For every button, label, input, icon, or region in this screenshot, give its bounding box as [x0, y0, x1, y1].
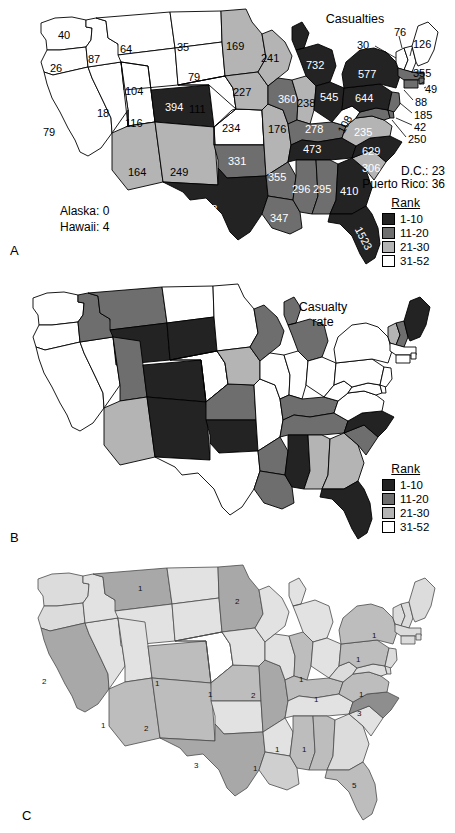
state-az — [109, 678, 160, 746]
legend-label-11-20: 11-20 — [400, 493, 429, 505]
value-label-nh: 30 — [357, 40, 369, 51]
state-mn — [213, 284, 258, 351]
count-label-nc: 3 — [357, 710, 361, 718]
legend-row: 1-10 — [382, 479, 429, 492]
legend-label-21-30: 21-30 — [400, 241, 429, 253]
panel-b-legend: Rank 1-10 11-20 21-30 31-52 — [382, 462, 429, 535]
value-label-ks: 234 — [222, 123, 240, 134]
value-label-ri: 49 — [425, 84, 437, 95]
value-label-az: 164 — [128, 167, 146, 178]
value-label-ma: 355 — [413, 68, 431, 79]
state-ct — [401, 636, 415, 644]
state-az — [104, 397, 155, 465]
value-label-de: 42 — [414, 122, 426, 133]
legend-row: 31-52 — [382, 255, 429, 268]
value-label-wi: 241 — [261, 53, 279, 64]
state-ri — [416, 634, 421, 640]
legend-row: 11-20 — [382, 493, 429, 506]
panel-a: Casualties 40 26 87 64 35 79 104 111 18 … — [0, 0, 455, 282]
legend-swatch-11-20 — [382, 227, 395, 239]
state-ct — [404, 80, 418, 88]
state-ia — [222, 628, 265, 666]
legend-swatch-31-52 — [382, 255, 395, 267]
value-label-me: 126 — [413, 39, 431, 50]
count-label-mt: 1 — [138, 585, 142, 593]
value-label-va: 235 — [354, 127, 372, 138]
legend-row: 21-30 — [382, 507, 429, 520]
state-wa — [38, 573, 89, 606]
value-label-co: 394 — [165, 102, 183, 113]
state-mi — [292, 22, 336, 86]
value-label-tn: 473 — [303, 144, 321, 155]
legend-label-1-10: 1-10 — [400, 213, 423, 225]
value-label-ar: 355 — [268, 172, 286, 183]
state-ri — [411, 353, 416, 359]
panel-c: 1 2 2 1 1 2 1 1 1 1 1 3 1 2 3 1 1 1 5 C — [0, 560, 455, 833]
value-label-tx: 498 — [199, 204, 217, 215]
value-label-md: 250 — [408, 134, 426, 145]
value-label-nd: 35 — [177, 42, 189, 53]
state-fl — [325, 762, 377, 820]
panel-b-letter: B — [10, 530, 19, 545]
count-label-nm: 2 — [144, 725, 148, 733]
state-co — [143, 360, 206, 402]
legend-row: 31-52 — [382, 521, 429, 534]
state-nd — [167, 567, 219, 604]
state-me — [409, 578, 435, 622]
count-label-ny: 1 — [372, 632, 376, 640]
state-ny — [339, 604, 397, 644]
legend-title: Rank — [382, 462, 429, 476]
panel-a-legend: Rank 1-10 11-20 21-30 31-52 — [382, 196, 429, 269]
value-label-ia: 227 — [233, 87, 251, 98]
legend-swatch-1-10 — [382, 479, 395, 491]
value-label-mt: 64 — [120, 44, 132, 55]
panel-b: Casualty rate Rank 1-10 11-20 21-30 31-5… — [0, 282, 455, 560]
legend-swatch-21-30 — [382, 507, 395, 519]
legend-row: 21-30 — [382, 241, 429, 254]
value-label-wa: 40 — [58, 30, 70, 41]
value-label-nm: 249 — [170, 167, 188, 178]
state-mi — [289, 578, 333, 642]
count-label-la: 1 — [253, 765, 257, 773]
panel-a-note-alaska: Alaska: 0 — [60, 203, 109, 220]
state-ks — [206, 384, 256, 420]
state-fl — [328, 206, 380, 264]
panel-b-title-line2: rate — [278, 315, 368, 329]
legend-title: Rank — [382, 196, 429, 210]
state-wa — [33, 292, 84, 325]
value-label-nj: 185 — [414, 110, 432, 121]
legend-swatch-31-52 — [382, 521, 395, 533]
state-ms — [290, 716, 315, 770]
state-nd — [162, 286, 214, 323]
count-label-mo: 2 — [251, 692, 255, 700]
value-label-ca: 79 — [43, 127, 55, 138]
state-az — [112, 122, 163, 190]
count-label-pa: 1 — [356, 656, 360, 664]
count-label-az: 1 — [101, 722, 105, 730]
panel-c-letter: C — [22, 808, 32, 823]
panel-a-note-hawaii: Hawaii: 4 — [60, 219, 109, 236]
value-label-nv: 18 — [97, 108, 109, 119]
count-label-in: 1 — [299, 676, 303, 684]
legend-label-1-10: 1-10 — [400, 479, 423, 491]
value-label-wy: 104 — [125, 86, 143, 97]
state-mn — [218, 565, 263, 632]
value-label-ky: 278 — [305, 124, 323, 135]
state-tn — [280, 413, 348, 437]
value-label-id: 87 — [88, 54, 100, 65]
legend-label-21-30: 21-30 — [400, 507, 429, 519]
value-label-ut: 116 — [125, 118, 143, 129]
panel-a-title: Casualties — [300, 12, 410, 26]
value-label-mo: 176 — [268, 124, 286, 135]
value-label-oh: 545 — [320, 92, 338, 103]
state-fl — [320, 481, 372, 539]
value-label-ny: 577 — [358, 69, 376, 80]
panel-a-note-pr: Puerto Rico: 36 — [315, 177, 445, 193]
state-sd — [167, 317, 217, 360]
state-nm — [152, 678, 215, 741]
value-label-sd: 79 — [188, 72, 200, 83]
legend-row: 1-10 — [382, 213, 429, 226]
legend-swatch-1-10 — [382, 213, 395, 225]
legend-label-31-52: 31-52 — [400, 255, 429, 267]
state-sd — [172, 598, 222, 641]
